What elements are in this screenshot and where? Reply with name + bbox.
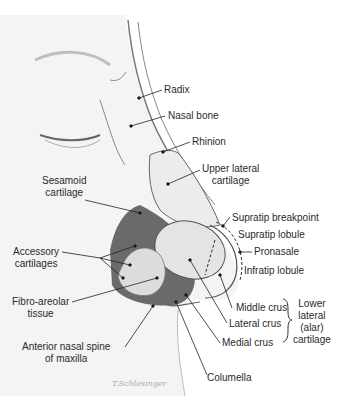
label-nasal-bone: Nasal bone: [168, 110, 219, 122]
label-supratip-breakpoint: Supratip breakpoint: [232, 212, 319, 224]
label-supratip-lobule: Supratip lobule: [238, 229, 305, 241]
label-lateral-crus: Lateral crus: [229, 318, 281, 330]
label-pronasale: Pronasale: [254, 246, 299, 258]
label-anterior-nasal-spine: Anterior nasal spine of maxilla: [22, 341, 110, 365]
label-rhinion: Rhinion: [192, 136, 226, 148]
label-infratip-lobule: Infratip lobule: [244, 265, 304, 277]
artist-signature: T.Schlesinger: [112, 378, 167, 390]
label-accessory-cartilages: Accessory cartilages: [13, 246, 59, 270]
nasal-anatomy-diagram: Radix Nasal bone Rhinion Upper lateral c…: [0, 0, 347, 396]
label-sesamoid-cartilage: Sesamoid cartilage: [42, 175, 86, 199]
label-columella: Columella: [207, 372, 251, 384]
label-middle-crus: Middle crus: [236, 302, 287, 314]
label-fibro-areolar-tissue: Fibro-areolar tissue: [12, 296, 69, 320]
label-upper-lateral-cartilage: Upper lateral cartilage: [202, 163, 259, 187]
label-radix: Radix: [164, 84, 190, 96]
label-medial-crus: Medial crus: [222, 337, 273, 349]
label-lower-lateral-alar-cartilage: Lower lateral (alar) cartilage: [293, 298, 331, 346]
